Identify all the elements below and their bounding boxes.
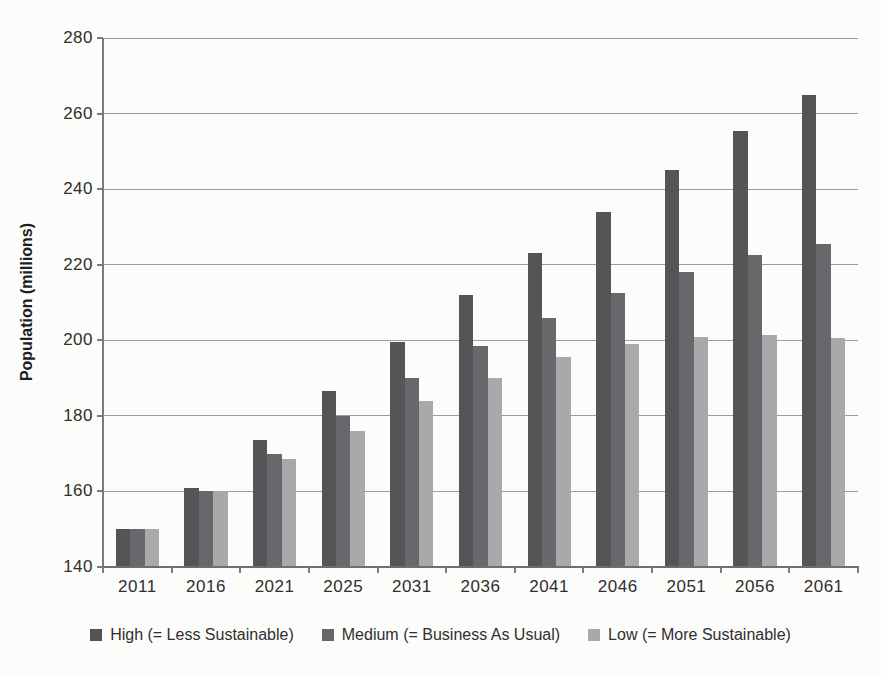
x-tick-label-2021: 2021 xyxy=(240,577,309,597)
y-tick-mark-200 xyxy=(97,339,103,341)
legend-swatch-high xyxy=(90,629,102,641)
bar-high-2046 xyxy=(596,212,610,567)
y-tick-mark-220 xyxy=(97,264,103,266)
bar-medium-2031 xyxy=(405,378,419,567)
legend-item-low: Low (= More Sustainable) xyxy=(588,626,791,644)
y-tick-label-180: 180 xyxy=(28,407,93,425)
x-tick-mark-4 xyxy=(377,567,379,573)
bar-low-2051 xyxy=(694,337,708,567)
gridline-260 xyxy=(103,113,858,114)
x-tick-label-2011: 2011 xyxy=(103,577,172,597)
legend-label-high: High (= Less Sustainable) xyxy=(110,626,294,644)
bar-medium-2036 xyxy=(473,346,487,567)
bar-low-2056 xyxy=(762,335,776,567)
y-tick-label-160: 160 xyxy=(28,482,93,500)
bar-high-2016 xyxy=(184,488,198,567)
y-tick-mark-240 xyxy=(97,188,103,190)
legend-label-medium: Medium (= Business As Usual) xyxy=(342,626,560,644)
bar-low-2031 xyxy=(419,401,433,567)
bar-low-2025 xyxy=(350,431,364,567)
y-tick-label-140: 140 xyxy=(28,558,93,576)
y-tick-label-280: 280 xyxy=(28,29,93,47)
bar-high-2061 xyxy=(802,95,816,567)
x-tick-label-2031: 2031 xyxy=(378,577,447,597)
y-tick-label-260: 260 xyxy=(28,105,93,123)
bar-medium-2021 xyxy=(267,454,281,567)
bar-low-2061 xyxy=(831,338,845,567)
y-tick-mark-260 xyxy=(97,113,103,115)
bar-medium-2056 xyxy=(748,255,762,567)
x-tick-mark-0 xyxy=(102,567,104,573)
bar-medium-2046 xyxy=(611,293,625,567)
bar-medium-2016 xyxy=(199,491,213,567)
bar-medium-2011 xyxy=(130,529,144,567)
x-tick-mark-1 xyxy=(171,567,173,573)
gridline-280 xyxy=(103,38,858,39)
x-tick-mark-8 xyxy=(651,567,653,573)
x-tick-label-2041: 2041 xyxy=(515,577,584,597)
x-tick-mark-9 xyxy=(720,567,722,573)
bar-low-2041 xyxy=(556,357,570,567)
bar-high-2036 xyxy=(459,295,473,567)
bar-high-2025 xyxy=(322,391,336,567)
y-tick-label-200: 200 xyxy=(28,331,93,349)
population-projection-chart: Population (millions) High (= Less Susta… xyxy=(0,0,881,677)
legend-item-medium: Medium (= Business As Usual) xyxy=(322,626,560,644)
bar-low-2036 xyxy=(488,378,502,567)
x-tick-label-2016: 2016 xyxy=(172,577,241,597)
bar-high-2051 xyxy=(665,170,679,567)
bar-low-2046 xyxy=(625,344,639,567)
bar-high-2011 xyxy=(116,529,130,567)
x-tick-mark-7 xyxy=(582,567,584,573)
y-axis-line xyxy=(102,38,104,568)
bar-low-2011 xyxy=(145,529,159,567)
y-tick-mark-160 xyxy=(97,490,103,492)
bar-low-2021 xyxy=(282,459,296,567)
legend-swatch-medium xyxy=(322,629,334,641)
x-tick-label-2046: 2046 xyxy=(583,577,652,597)
plot-area xyxy=(103,38,858,567)
legend-label-low: Low (= More Sustainable) xyxy=(608,626,791,644)
x-tick-mark-5 xyxy=(445,567,447,573)
bar-high-2041 xyxy=(528,253,542,567)
x-tick-mark-3 xyxy=(308,567,310,573)
x-tick-label-2025: 2025 xyxy=(309,577,378,597)
bar-high-2021 xyxy=(253,440,267,567)
x-tick-mark-2 xyxy=(239,567,241,573)
x-tick-mark-6 xyxy=(514,567,516,573)
bar-high-2056 xyxy=(733,131,747,567)
y-tick-mark-280 xyxy=(97,37,103,39)
legend: High (= Less Sustainable)Medium (= Busin… xyxy=(0,626,881,644)
bar-medium-2025 xyxy=(336,416,350,567)
x-tick-label-2056: 2056 xyxy=(721,577,790,597)
x-tick-mark-11 xyxy=(857,567,859,573)
bar-medium-2051 xyxy=(679,272,693,567)
x-tick-label-2061: 2061 xyxy=(789,577,858,597)
legend-swatch-low xyxy=(588,629,600,641)
legend-item-high: High (= Less Sustainable) xyxy=(90,626,294,644)
y-tick-mark-180 xyxy=(97,415,103,417)
y-tick-label-220: 220 xyxy=(28,256,93,274)
x-axis-line xyxy=(100,566,859,568)
bar-low-2016 xyxy=(213,491,227,567)
x-tick-mark-10 xyxy=(788,567,790,573)
bar-high-2031 xyxy=(390,342,404,567)
x-tick-label-2051: 2051 xyxy=(652,577,721,597)
x-tick-label-2036: 2036 xyxy=(446,577,515,597)
y-tick-label-240: 240 xyxy=(28,180,93,198)
bar-medium-2041 xyxy=(542,318,556,567)
bar-medium-2061 xyxy=(816,244,830,567)
